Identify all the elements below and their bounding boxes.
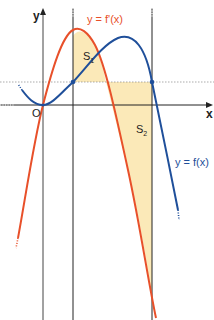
curve-f-prime-dash xyxy=(16,238,18,248)
curve-f-label: y = f(x) xyxy=(175,156,209,168)
curve-f-prime-label: y = f'(x) xyxy=(87,13,123,25)
curve-f-dash-start xyxy=(18,84,22,90)
curve-f-dash-end xyxy=(178,210,179,220)
point-b xyxy=(150,80,155,85)
y-axis-arrow-icon xyxy=(40,8,46,15)
y-axis-label: y xyxy=(33,9,40,23)
x-axis-label: x xyxy=(206,107,213,121)
diagram-canvas: y x O y = f'(x) y = f(x) S1 S2 xyxy=(0,0,214,320)
point-origin xyxy=(41,103,44,106)
point-a xyxy=(71,80,76,85)
origin-label: O xyxy=(32,107,41,119)
region-s2 xyxy=(106,82,152,300)
